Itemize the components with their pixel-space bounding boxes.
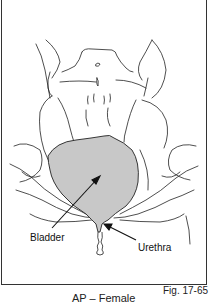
bladder-label: Bladder xyxy=(30,232,64,243)
figure-caption: AP – Female xyxy=(72,292,135,304)
figure-number: Fig. 17-65 xyxy=(163,285,208,296)
urethra-label: Urethra xyxy=(138,242,171,253)
